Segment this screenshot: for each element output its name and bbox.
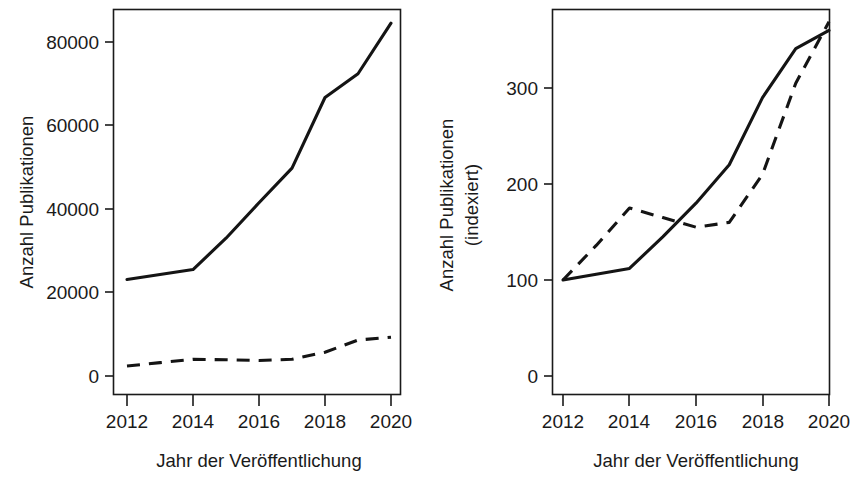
series-line-dashed-left [127, 337, 391, 366]
plot-frame-right [553, 10, 830, 395]
x-tick-label-2014: 2014 [172, 411, 215, 432]
chart-panel-left: 80000 60000 40000 20000 0 2012 2014 2016… [0, 0, 426, 478]
y-tick-label-0: 0 [527, 366, 538, 387]
series-line-solid-right [563, 30, 829, 280]
x-tick-label-2016: 2016 [238, 411, 280, 432]
figure-two-panel-line-charts: 80000 60000 40000 20000 0 2012 2014 2016… [0, 0, 852, 478]
x-tick-label-2012: 2012 [542, 411, 584, 432]
y-tick-label-200: 200 [506, 174, 538, 195]
series-group-right [563, 22, 829, 280]
y-tick-label-60000: 60000 [46, 115, 99, 136]
series-line-solid-left [127, 23, 391, 279]
x-tick-label-2016: 2016 [675, 411, 717, 432]
series-group-left [127, 23, 391, 366]
plot-box-right [553, 10, 830, 395]
y-tick-label-40000: 40000 [46, 199, 99, 220]
y-tick-label-100: 100 [506, 270, 538, 291]
x-tick-label-2012: 2012 [106, 411, 148, 432]
x-axis-title-left: Jahr der Veröffentlichung [156, 450, 361, 471]
y-axis-title-left: Anzahl Publikationen [16, 116, 37, 289]
x-axis-title-right: Jahr der Veröffentlichung [593, 450, 798, 471]
plot-box-left [114, 10, 401, 395]
y-tick-label-0: 0 [88, 366, 99, 387]
x-tick-label-2020: 2020 [370, 411, 412, 432]
y-axis-title-right-line2: (indexiert) [461, 164, 482, 246]
x-tick-label-2020: 2020 [808, 411, 850, 432]
chart-panel-right: 300 200 100 0 2012 2014 2016 2018 2020 J… [426, 0, 852, 478]
plot-frame-left [114, 10, 401, 395]
x-axis-left: 2012 2014 2016 2018 2020 [106, 394, 412, 432]
y-axis-right: 300 200 100 0 [506, 78, 552, 387]
x-tick-label-2018: 2018 [304, 411, 346, 432]
y-tick-label-80000: 80000 [46, 32, 99, 53]
y-axis-title-right-line1: Anzahl Publikationen [436, 119, 457, 292]
y-tick-label-20000: 20000 [46, 282, 99, 303]
y-tick-label-300: 300 [506, 78, 538, 99]
x-tick-label-2018: 2018 [742, 411, 784, 432]
x-axis-right: 2012 2014 2016 2018 2020 [542, 394, 850, 432]
y-axis-left: 80000 60000 40000 20000 0 [46, 32, 113, 387]
x-tick-label-2014: 2014 [608, 411, 651, 432]
